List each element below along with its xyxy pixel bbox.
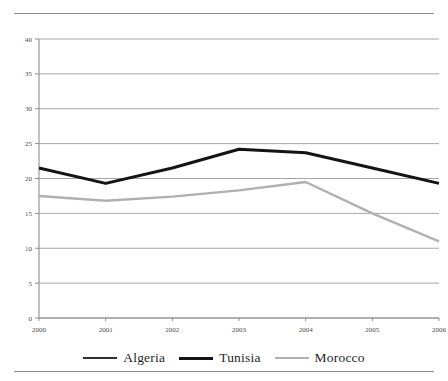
legend-swatch-morocco bbox=[275, 357, 309, 359]
plot-area: 0510152025303540200020012002200320042005… bbox=[0, 18, 448, 338]
y-tick-label-40: 40 bbox=[25, 36, 33, 44]
figure-bottom-divider bbox=[14, 371, 434, 372]
line-chart-figure: 0510152025303540200020012002200320042005… bbox=[0, 0, 448, 381]
y-tick-label-25: 25 bbox=[25, 140, 33, 148]
x-tick-label-2006: 2006 bbox=[432, 326, 447, 334]
y-tick-label-35: 35 bbox=[25, 70, 33, 78]
legend-label-morocco: Morocco bbox=[315, 350, 365, 366]
legend-swatch-tunisia bbox=[179, 357, 213, 360]
y-tick-label-5: 5 bbox=[29, 280, 33, 288]
y-tick-label-20: 20 bbox=[25, 175, 33, 183]
x-tick-label-2004: 2004 bbox=[299, 326, 314, 334]
legend-item-tunisia[interactable]: Tunisia bbox=[179, 350, 260, 366]
x-tick-label-2002: 2002 bbox=[165, 326, 180, 334]
x-tick-label-2005: 2005 bbox=[365, 326, 380, 334]
y-tick-label-30: 30 bbox=[25, 105, 33, 113]
x-tick-label-2001: 2001 bbox=[99, 326, 114, 334]
y-tick-label-0: 0 bbox=[29, 315, 33, 323]
chart-legend: Algeria Tunisia Morocco bbox=[0, 347, 448, 369]
legend-swatch-algeria bbox=[83, 357, 117, 359]
legend-item-morocco[interactable]: Morocco bbox=[275, 350, 365, 366]
x-tick-label-2000: 2000 bbox=[32, 326, 47, 334]
legend-label-tunisia: Tunisia bbox=[219, 350, 260, 366]
plot-svg: 0510152025303540200020012002200320042005… bbox=[0, 18, 448, 338]
legend-label-algeria: Algeria bbox=[123, 350, 165, 366]
legend-item-algeria[interactable]: Algeria bbox=[83, 350, 165, 366]
figure-top-divider bbox=[14, 13, 434, 14]
series-line-morocco bbox=[39, 182, 439, 241]
x-tick-label-2003: 2003 bbox=[232, 326, 247, 334]
y-tick-label-10: 10 bbox=[25, 245, 33, 253]
y-tick-label-15: 15 bbox=[25, 210, 33, 218]
